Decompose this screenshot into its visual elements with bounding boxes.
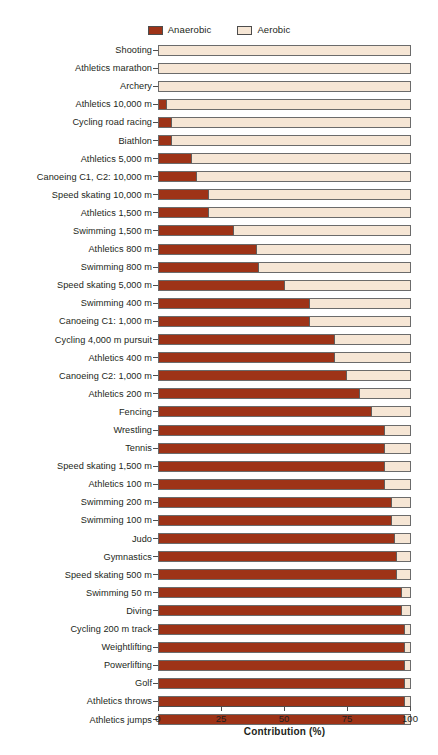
stacked-bar: [158, 605, 411, 616]
bar-row: Canoeing C1: 1,000 m: [0, 312, 438, 330]
category-label: Swimming 400 m: [0, 298, 152, 308]
bar-segment-aerobic: [402, 606, 410, 615]
bar-row: Judo: [0, 530, 438, 548]
stacked-bar: [158, 515, 411, 526]
stacked-bar: [158, 225, 411, 236]
bar-row: Weightlifting: [0, 638, 438, 656]
stacked-bar: [158, 262, 411, 273]
bar-segment-aerobic: [234, 226, 410, 235]
category-label: Speed skating 5,000 m: [0, 280, 152, 290]
stacked-bar: [158, 45, 411, 56]
bar-segment-aerobic: [172, 118, 410, 127]
bar-segment-anaerobic: [159, 679, 405, 688]
bar-segment-aerobic: [402, 588, 410, 597]
bar-segment-aerobic: [405, 697, 410, 706]
x-tick-label: 75: [342, 713, 353, 724]
bar-row: Athletics 5,000 m: [0, 150, 438, 168]
category-label: Swimming 50 m: [0, 588, 152, 598]
chart-legend: Anaerobic Aerobic: [0, 22, 438, 38]
bar-segment-anaerobic: [159, 154, 192, 163]
bar-segment-anaerobic: [159, 100, 167, 109]
category-label: Athletics marathon: [0, 63, 152, 73]
bar-row: Athletics 10,000 m: [0, 95, 438, 113]
bar-row: Archery: [0, 77, 438, 95]
bar-segment-aerobic: [360, 389, 410, 398]
category-label: Swimming 1,500 m: [0, 226, 152, 236]
category-label: Athletics 400 m: [0, 353, 152, 363]
category-label: Golf: [0, 678, 152, 688]
bar-segment-aerobic: [167, 100, 410, 109]
category-label: Athletics 200 m: [0, 389, 152, 399]
bar-segment-anaerobic: [159, 190, 209, 199]
bar-segment-aerobic: [372, 407, 410, 416]
bar-segment-anaerobic: [159, 643, 405, 652]
category-label: Canoeing C1: 1,000 m: [0, 316, 152, 326]
category-label: Biathlon: [0, 136, 152, 146]
stacked-bar: [158, 370, 411, 381]
bar-segment-aerobic: [405, 625, 410, 634]
stacked-bar: [158, 642, 411, 653]
category-label: Diving: [0, 606, 152, 616]
bar-row: Speed skating 1,500 m: [0, 457, 438, 475]
x-tick-mark: [284, 706, 285, 711]
category-label: Wrestling: [0, 425, 152, 435]
category-label: Judo: [0, 534, 152, 544]
bar-segment-aerobic: [159, 64, 410, 73]
bar-row: Speed skating 5,000 m: [0, 276, 438, 294]
bar-row: Swimming 400 m: [0, 294, 438, 312]
bar-row: Speed skating 500 m: [0, 566, 438, 584]
bar-row: Tennis: [0, 439, 438, 457]
bar-row: Athletics marathon: [0, 59, 438, 77]
bar-segment-aerobic: [405, 679, 410, 688]
bar-row: Gymnastics: [0, 548, 438, 566]
bar-segment-aerobic: [385, 426, 410, 435]
bar-segment-aerobic: [335, 335, 410, 344]
bar-row: Athletics 200 m: [0, 385, 438, 403]
bar-segment-aerobic: [405, 643, 410, 652]
stacked-bar: [158, 81, 411, 92]
bar-segment-aerobic: [392, 516, 410, 525]
category-label: Speed skating 10,000 m: [0, 190, 152, 200]
x-tick-label: 0: [155, 713, 160, 724]
category-label: Canoeing C2: 1,000 m: [0, 371, 152, 381]
bar-segment-anaerobic: [159, 389, 360, 398]
bar-segment-aerobic: [197, 172, 410, 181]
bar-segment-aerobic: [347, 371, 410, 380]
legend-entry-anaerobic: Anaerobic: [148, 25, 212, 35]
bar-row: Golf: [0, 674, 438, 692]
x-tick-mark: [221, 706, 222, 711]
bar-segment-anaerobic: [159, 299, 310, 308]
bar-segment-aerobic: [159, 82, 410, 91]
category-label: Speed skating 1,500 m: [0, 461, 152, 471]
bar-segment-aerobic: [209, 208, 410, 217]
bar-segment-aerobic: [395, 534, 410, 543]
category-label: Powerlifting: [0, 660, 152, 670]
stacked-bar: [158, 624, 411, 635]
stacked-bar: [158, 63, 411, 74]
stacked-bar: [158, 153, 411, 164]
stacked-bar: [158, 171, 411, 182]
bar-row: Swimming 1,500 m: [0, 222, 438, 240]
bar-row: Swimming 800 m: [0, 258, 438, 276]
stacked-bar: [158, 406, 411, 417]
stacked-bar: [158, 189, 411, 200]
legend-swatch-filled-icon: [148, 26, 163, 35]
bar-segment-aerobic: [397, 570, 410, 579]
category-label: Athletics jumps: [0, 715, 152, 725]
bar-row: Athletics 1,500 m: [0, 204, 438, 222]
category-label: Cycling 4,000 m pursuit: [0, 335, 152, 345]
bar-segment-aerobic: [392, 498, 410, 507]
bar-segment-anaerobic: [159, 661, 405, 670]
stacked-bar: [158, 461, 411, 472]
bar-segment-aerobic: [405, 661, 410, 670]
bar-segment-aerobic: [385, 480, 410, 489]
bar-segment-anaerobic: [159, 534, 395, 543]
bar-segment-aerobic: [172, 136, 410, 145]
bar-segment-anaerobic: [159, 353, 335, 362]
category-label: Athletics 800 m: [0, 244, 152, 254]
category-label: Weightlifting: [0, 642, 152, 652]
bar-segment-aerobic: [192, 154, 410, 163]
bar-segment-aerobic: [385, 444, 410, 453]
stacked-bar: [158, 316, 411, 327]
bar-row: Athletics throws: [0, 692, 438, 710]
